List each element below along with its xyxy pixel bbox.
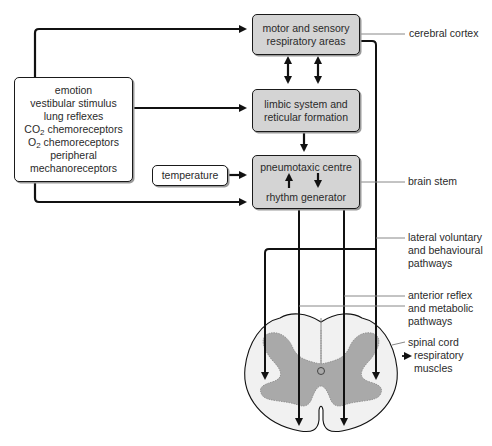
brainstem-arrows: [0, 0, 492, 446]
